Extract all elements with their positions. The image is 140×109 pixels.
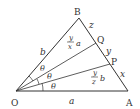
side-label-z: z <box>88 20 94 30</box>
vertex-label-Q: Q <box>97 35 104 45</box>
svg-text:b: b <box>100 74 105 83</box>
vertex-label-A: A <box>125 98 133 108</box>
svg-text:x: x <box>68 43 72 51</box>
svg-text:z: z <box>91 78 96 86</box>
angle-arc-1 <box>42 83 43 91</box>
svg-text:a: a <box>76 39 81 48</box>
vertex-label-O: O <box>11 98 18 108</box>
angle-label-theta-bottom: θ <box>51 82 56 91</box>
svg-text:y: y <box>68 34 74 42</box>
angle-label-theta-top: θ <box>40 64 45 73</box>
side-label-b: b <box>40 47 46 57</box>
side-label-a: a <box>69 96 74 106</box>
vertex-label-B: B <box>74 7 81 17</box>
triangle-diagram: B O A Q P z y x b a y x a y z b θ θ θ <box>0 0 140 109</box>
segment-OQ <box>16 43 96 91</box>
vertex-label-P: P <box>111 57 117 67</box>
side-label-x: x <box>120 69 125 79</box>
angle-arc-3 <box>29 76 33 81</box>
side-label-y: y <box>105 46 112 56</box>
angle-label-theta-middle: θ <box>47 72 52 81</box>
svg-text:y: y <box>92 69 98 77</box>
fraction-y-over-x-a: y x a <box>67 34 81 51</box>
fraction-y-over-z-b: y z b <box>91 69 105 86</box>
angle-arc-2 <box>37 79 39 84</box>
